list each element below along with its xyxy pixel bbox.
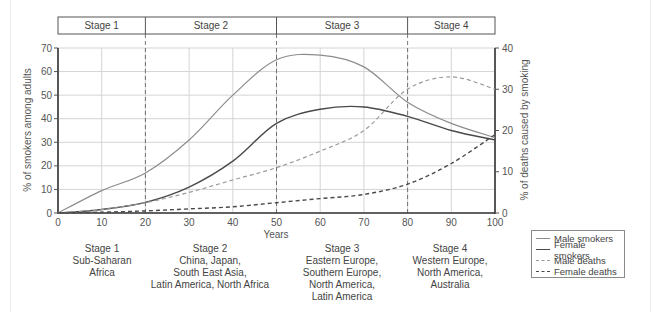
stage-label: Stage 4 xyxy=(434,20,469,31)
y-axis-left-title: % of smokers among adults xyxy=(22,68,33,191)
x-tick-label: 90 xyxy=(446,217,458,228)
region-line: North America, xyxy=(370,267,530,279)
x-tick-label: 10 xyxy=(96,217,108,228)
dashed-line-light-icon xyxy=(536,260,550,261)
region-line: Latin America xyxy=(262,291,422,303)
x-tick-label: 80 xyxy=(402,217,414,228)
stage-label: Stage 1 xyxy=(84,20,119,31)
x-tick-label: 60 xyxy=(315,217,327,228)
legend-label: Female deaths xyxy=(554,266,617,277)
x-tick-label: 30 xyxy=(184,217,196,228)
x-tick-label: 70 xyxy=(358,217,370,228)
region-stage-4: Stage 4Western Europe,North America,Aust… xyxy=(370,243,530,291)
y-tick-label-right: 0 xyxy=(502,208,508,219)
x-tick-label: 100 xyxy=(487,217,504,228)
stage-label: Stage 3 xyxy=(325,20,360,31)
region-line: Australia xyxy=(370,279,530,291)
stage-bar: Stage 1Stage 2Stage 3Stage 4 xyxy=(58,17,495,34)
x-tick-label: 20 xyxy=(140,217,152,228)
stage-label: Stage 2 xyxy=(194,20,229,31)
axes: 0102030405060708090100010203040506070010… xyxy=(41,43,514,229)
y-axis-right-title: % of deaths caused by smoking xyxy=(519,59,530,200)
solid-line-light-icon xyxy=(536,238,550,239)
x-tick-label: 50 xyxy=(271,217,283,228)
x-tick-label: 0 xyxy=(55,217,61,228)
y-tick-label-left: 40 xyxy=(41,113,53,124)
y-tick-label-right: 20 xyxy=(502,125,514,136)
legend-item-female-deaths: Female deaths xyxy=(536,266,624,277)
x-axis-title: Years xyxy=(263,229,288,240)
solid-line-dark-icon xyxy=(536,249,550,250)
region-line: Stage 4 xyxy=(370,243,530,255)
x-tick-label: 40 xyxy=(227,217,239,228)
y-tick-label-right: 30 xyxy=(502,84,514,95)
legend-label: Male deaths xyxy=(554,255,606,266)
dashed-line-dark-icon xyxy=(536,271,550,272)
y-tick-label-left: 70 xyxy=(41,43,53,54)
legend: Male smokers Female smokers Male deaths … xyxy=(531,230,625,278)
y-tick-label-left: 20 xyxy=(41,160,53,171)
y-tick-label-left: 0 xyxy=(46,208,52,219)
y-tick-label-left: 50 xyxy=(41,90,53,101)
y-tick-label-right: 40 xyxy=(502,43,514,54)
y-tick-label-left: 30 xyxy=(41,137,53,148)
y-tick-label-left: 60 xyxy=(41,66,53,77)
region-line: Western Europe, xyxy=(370,255,530,267)
y-tick-label-right: 10 xyxy=(502,166,514,177)
y-tick-label-left: 10 xyxy=(41,184,53,195)
legend-item-female-smokers: Female smokers xyxy=(536,244,624,255)
